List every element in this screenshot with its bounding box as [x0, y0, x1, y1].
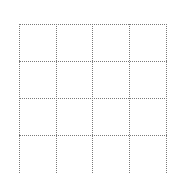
grid-line-vertical [92, 24, 93, 173]
grid-line-horizontal [19, 24, 167, 25]
grid-line-vertical [56, 24, 57, 173]
dotted-grid [19, 24, 167, 173]
grid-line-horizontal [19, 61, 167, 62]
grid-line-horizontal [19, 98, 167, 99]
grid-line-horizontal [19, 135, 167, 136]
grid-line-vertical [166, 24, 167, 173]
grid-line-vertical [19, 24, 20, 173]
grid-line-vertical [129, 24, 130, 173]
